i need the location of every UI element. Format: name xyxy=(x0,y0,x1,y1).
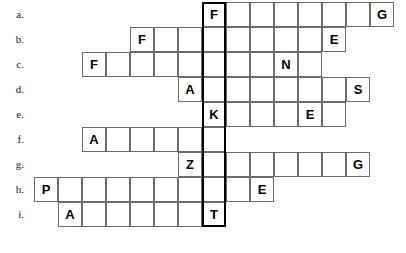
crossword-cell[interactable] xyxy=(226,27,250,52)
crossword-puzzle-grid: a.FGb.FEc.FNd.ASe.KEf.Ag.ZGh.PEi.AT xyxy=(0,0,406,253)
row-label-i: i. xyxy=(2,202,24,227)
crossword-cell[interactable]: F xyxy=(82,52,106,77)
crossword-cell[interactable] xyxy=(178,52,202,77)
crossword-cell[interactable] xyxy=(250,152,274,177)
crossword-cell[interactable] xyxy=(106,52,130,77)
crossword-cell[interactable] xyxy=(130,127,154,152)
crossword-cell[interactable] xyxy=(226,77,250,102)
crossword-cell[interactable] xyxy=(106,127,130,152)
crossword-cell[interactable] xyxy=(130,202,154,227)
crossword-cell[interactable]: P xyxy=(34,177,58,202)
crossword-cell[interactable] xyxy=(154,27,178,52)
row-label-d: d. xyxy=(2,77,24,102)
crossword-cell[interactable] xyxy=(274,77,298,102)
crossword-cell[interactable]: E xyxy=(322,27,346,52)
crossword-cell[interactable] xyxy=(226,177,250,202)
crossword-cell-highlighted[interactable] xyxy=(202,177,226,202)
row-label-h: h. xyxy=(2,177,24,202)
crossword-cell[interactable] xyxy=(82,202,106,227)
crossword-cell[interactable]: A xyxy=(82,127,106,152)
crossword-cell[interactable] xyxy=(106,202,130,227)
crossword-cell[interactable] xyxy=(58,177,82,202)
crossword-cell[interactable] xyxy=(322,152,346,177)
crossword-cell[interactable] xyxy=(82,177,106,202)
crossword-cell[interactable] xyxy=(250,52,274,77)
crossword-cell[interactable] xyxy=(298,77,322,102)
crossword-cell[interactable]: E xyxy=(250,177,274,202)
crossword-cell[interactable] xyxy=(250,77,274,102)
crossword-cell[interactable]: G xyxy=(370,2,394,27)
crossword-cell-highlighted[interactable] xyxy=(202,77,226,102)
crossword-cell-highlighted[interactable] xyxy=(202,152,226,177)
crossword-cell-highlighted[interactable] xyxy=(202,127,226,152)
crossword-cell[interactable]: Z xyxy=(178,152,202,177)
crossword-cell[interactable] xyxy=(322,2,346,27)
crossword-cell-highlighted[interactable] xyxy=(202,27,226,52)
crossword-cell[interactable] xyxy=(274,2,298,27)
crossword-cell[interactable] xyxy=(250,102,274,127)
crossword-cell-highlighted[interactable] xyxy=(202,52,226,77)
crossword-cell[interactable] xyxy=(322,102,346,127)
crossword-cell[interactable] xyxy=(226,102,250,127)
crossword-cell[interactable] xyxy=(130,52,154,77)
crossword-cell[interactable] xyxy=(178,177,202,202)
row-label-g: g. xyxy=(2,152,24,177)
crossword-cell[interactable]: S xyxy=(346,77,370,102)
row-label-c: c. xyxy=(2,52,24,77)
crossword-cell[interactable] xyxy=(154,127,178,152)
crossword-cell[interactable] xyxy=(274,27,298,52)
crossword-cell[interactable] xyxy=(250,2,274,27)
crossword-cell[interactable]: E xyxy=(298,102,322,127)
crossword-cell[interactable] xyxy=(346,2,370,27)
crossword-cell[interactable] xyxy=(298,152,322,177)
crossword-cell[interactable]: A xyxy=(178,77,202,102)
crossword-cell[interactable] xyxy=(274,152,298,177)
crossword-cell[interactable]: G xyxy=(346,152,370,177)
crossword-cell[interactable] xyxy=(154,52,178,77)
crossword-cell-highlighted[interactable]: T xyxy=(202,202,226,227)
crossword-cell[interactable] xyxy=(130,177,154,202)
crossword-cell[interactable] xyxy=(298,27,322,52)
crossword-cell-highlighted[interactable]: F xyxy=(202,2,226,27)
crossword-cell[interactable] xyxy=(226,52,250,77)
row-label-e: e. xyxy=(2,102,24,127)
crossword-cell[interactable] xyxy=(106,177,130,202)
row-label-f: f. xyxy=(2,127,24,152)
crossword-cell[interactable] xyxy=(298,52,322,77)
crossword-cell[interactable] xyxy=(178,127,202,152)
crossword-cell[interactable]: F xyxy=(130,27,154,52)
row-label-b: b. xyxy=(2,27,24,52)
crossword-cell[interactable]: A xyxy=(58,202,82,227)
crossword-cell[interactable] xyxy=(226,152,250,177)
crossword-cell[interactable] xyxy=(178,202,202,227)
crossword-cell[interactable] xyxy=(178,27,202,52)
crossword-cell[interactable] xyxy=(226,2,250,27)
crossword-cell[interactable] xyxy=(298,2,322,27)
crossword-cell[interactable] xyxy=(250,27,274,52)
crossword-cell[interactable]: N xyxy=(274,52,298,77)
crossword-cell[interactable] xyxy=(154,202,178,227)
row-label-a: a. xyxy=(2,2,24,27)
crossword-cell[interactable] xyxy=(274,102,298,127)
crossword-cell[interactable] xyxy=(322,77,346,102)
crossword-cell[interactable] xyxy=(154,177,178,202)
crossword-cell-highlighted[interactable]: K xyxy=(202,102,226,127)
